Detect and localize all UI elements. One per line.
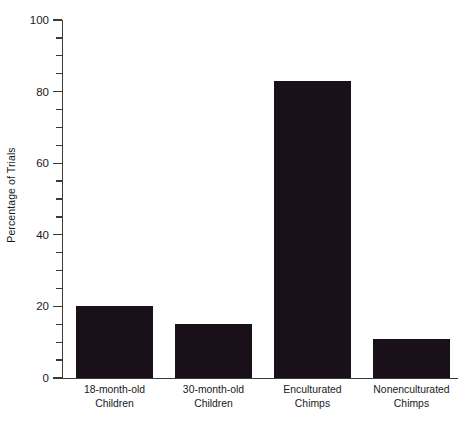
x-category-label: NonenculturatedChimps [353,383,470,410]
y-tick-minor [56,342,62,343]
y-tick-label: 60 [36,157,49,169]
y-tick-label: 80 [36,86,49,98]
x-category-label-line: Enculturated [283,384,341,395]
bar [274,81,352,378]
bar [76,306,154,378]
plot-area: 020406080100 [62,20,458,378]
y-tick-minor [56,216,62,217]
y-tick-minor [56,324,62,325]
y-axis-title-text: Percentage of Trials [5,147,17,242]
y-tick-major [53,19,62,20]
y-tick-minor [56,288,62,289]
x-axis-category-labels: 18-month-oldChildren30-month-oldChildren… [62,383,462,426]
y-tick-label: 40 [36,229,49,241]
x-category-label-line: 30-month-old [183,384,244,395]
y-axis-line [62,20,63,378]
x-axis-line [62,378,458,379]
y-tick-major [53,91,62,92]
y-tick-label: 100 [30,14,49,26]
y-tick-major [53,306,62,307]
y-tick-major [53,163,62,164]
y-tick-minor [56,73,62,74]
y-tick-minor [56,55,62,56]
y-axis-title: Percentage of Trials [0,0,22,390]
y-tick-minor [56,127,62,128]
y-tick-label: 0 [43,372,49,384]
x-category-label-line: Chimps [353,397,470,411]
y-tick-minor [56,145,62,146]
y-tick-minor [56,359,62,360]
bar [175,324,253,378]
y-tick-minor [56,37,62,38]
y-tick-major [53,234,62,235]
bar [373,339,451,378]
y-tick-label: 20 [36,300,49,312]
y-tick-minor [56,109,62,110]
bar-chart: Percentage of Trials 020406080100 18-mon… [0,0,470,426]
y-tick-major [53,377,62,378]
x-category-label-line: 18-month-old [84,384,145,395]
y-tick-minor [56,180,62,181]
y-tick-minor [56,270,62,271]
y-tick-minor [56,198,62,199]
x-category-label-line: Nonenculturated [373,384,449,395]
y-tick-minor [56,252,62,253]
